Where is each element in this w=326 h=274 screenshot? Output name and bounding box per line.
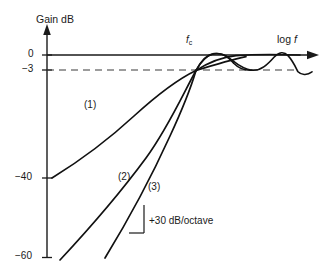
curve-2-label: (2) [118, 172, 130, 182]
y-axis-title: Gain dB [36, 14, 74, 25]
curve-3-passband [196, 53, 312, 75]
slope-annotation-label: +30 dB/octave [149, 216, 213, 226]
x-axis-title: log f [277, 34, 297, 45]
y-tick-label-minus-60: −60 [15, 251, 32, 261]
curve-2-path [60, 71, 196, 261]
curve-1-label: (1) [84, 100, 96, 110]
curve-1-passband [196, 54, 300, 70]
cutoff-frequency-label: fc [186, 35, 192, 46]
y-axis-arrowhead [43, 24, 51, 35]
cutoff-frequency-subscript: c [189, 39, 193, 46]
frequency-response-chart: Gain dB log f 0 −3 −40 −60 fc (1) (2) (3… [0, 0, 326, 274]
passband-ripple-group [196, 53, 312, 75]
x-axis-arrowhead [307, 51, 319, 59]
y-tick-label-0: 0 [28, 49, 34, 59]
curve-1-path [52, 71, 196, 179]
curve-3-label: (3) [148, 182, 160, 192]
x-axis-title-prefix: log [277, 33, 294, 45]
slope-triangle-marker [129, 205, 144, 233]
x-axis-title-italic: f [294, 33, 297, 45]
y-tick-label-minus-3: −3 [22, 64, 33, 74]
y-tick-label-minus-40: −40 [15, 172, 32, 182]
curve-3-path [105, 71, 196, 259]
